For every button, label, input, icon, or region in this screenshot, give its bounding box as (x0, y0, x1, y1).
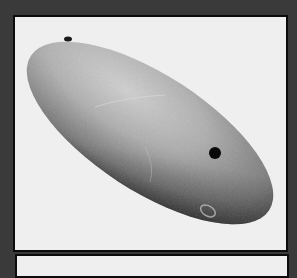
stone-artifact-photo (15, 17, 286, 250)
photo-frame (13, 15, 288, 252)
hole-upper (64, 37, 72, 42)
hole-right (209, 147, 221, 159)
next-photo-panel (15, 254, 289, 278)
